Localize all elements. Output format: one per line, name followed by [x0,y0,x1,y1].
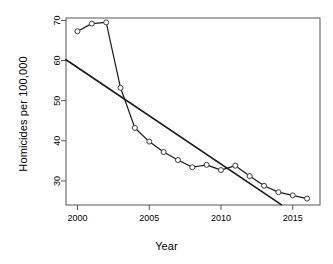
data-point-marker [118,85,123,90]
y-tick-label: 30 [52,176,62,186]
y-tick-label: 50 [52,96,62,106]
y-axis-label: Homicides per 100,000 [17,29,29,199]
x-tick-label: 2010 [211,213,231,223]
data-point-marker [175,158,180,163]
rate-polyline [77,22,307,198]
data-point-marker [89,21,94,26]
data-point-marker [290,193,295,198]
data-point-marker [218,168,223,173]
x-tick-label: 2005 [139,213,159,223]
data-point-marker [161,150,166,155]
y-tick-label: 40 [52,136,62,146]
y-axis-ticks: 3040506070 [52,15,66,186]
y-tick-label: 70 [52,15,62,25]
homicide-rate-series [77,22,307,198]
x-axis-ticks: 2000200520102015 [67,205,302,223]
plot-border [66,18,320,205]
trend-line-series [66,60,281,205]
data-point-marker [276,190,281,195]
chart-figure: 3040506070 2000200520102015 Homicides pe… [0,0,333,264]
data-point-markers [75,20,310,201]
data-point-marker [262,183,267,188]
data-point-marker [190,165,195,170]
y-tick-label: 60 [52,56,62,66]
trend-line [66,60,281,205]
data-point-marker [104,20,109,25]
x-tick-label: 2015 [283,213,303,223]
x-tick-label: 2000 [67,213,87,223]
chart-canvas: 3040506070 2000200520102015 [0,0,333,264]
data-point-marker [132,125,137,130]
data-point-marker [233,163,238,168]
data-point-marker [305,196,310,201]
data-point-marker [247,174,252,179]
data-point-marker [147,139,152,144]
x-axis-label: Year [0,240,333,252]
plot-frame [66,18,320,205]
data-point-marker [204,162,209,167]
data-point-marker [75,29,80,34]
